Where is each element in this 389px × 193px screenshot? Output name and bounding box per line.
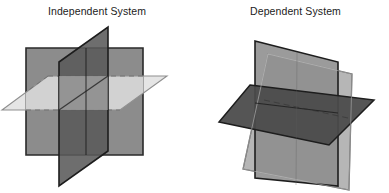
independent-system-scene [0,0,194,193]
figure-independent-system: Independent System [0,0,194,193]
dependent-system-scene [194,0,389,193]
diagram-container: Independent System [0,0,389,193]
figure-dependent-system: Dependent System [194,0,389,193]
